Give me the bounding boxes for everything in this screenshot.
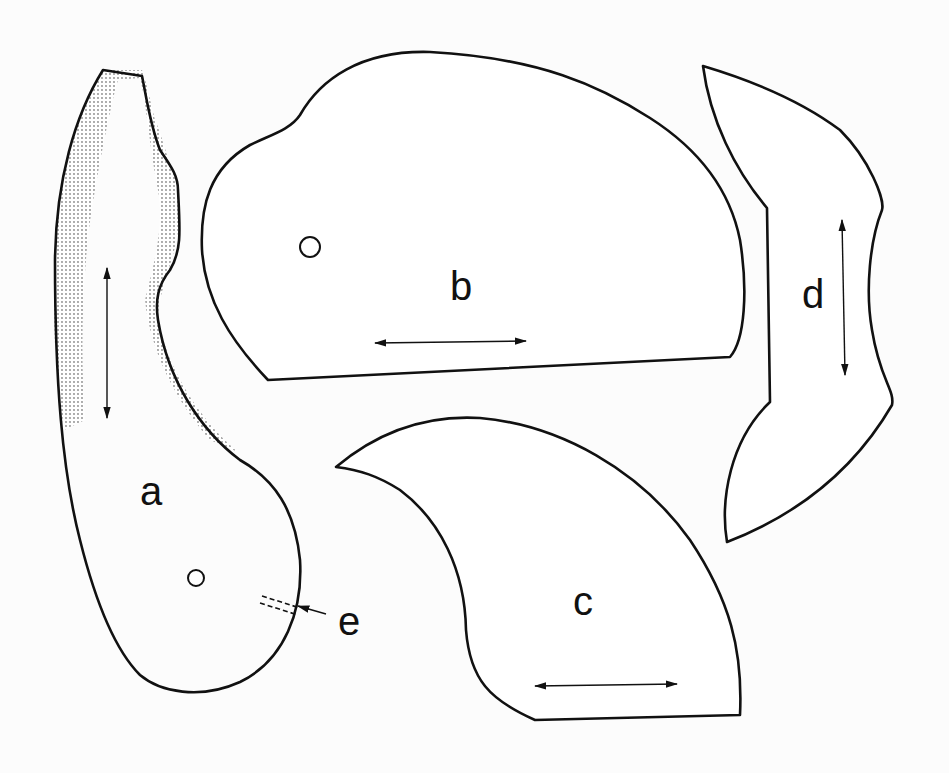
label-d: d [802,272,824,316]
label-b: b [450,264,472,308]
piece-b-outline [202,52,745,380]
label-e: e [338,599,360,643]
pattern-diagram: a e b c d [0,0,949,773]
piece-c-outline [336,418,740,720]
piece-c: c [336,418,740,720]
piece-b: b [202,52,745,380]
hole-a [188,570,204,586]
label-c: c [573,579,593,623]
hole-b [300,237,320,257]
label-a: a [140,469,163,513]
slit-marker-e [260,596,326,615]
